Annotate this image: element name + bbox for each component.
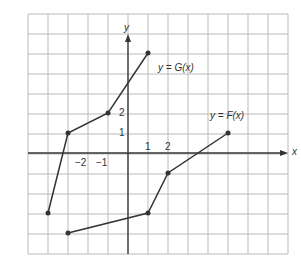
tick-x-m1: −1 (96, 157, 107, 168)
g-label: y = G(x) (158, 62, 194, 73)
tick-x-m2: −2 (75, 157, 86, 168)
tick-y-1: 1 (119, 127, 125, 138)
tick-y-2: 2 (119, 107, 125, 118)
f-label: y = F(x) (210, 110, 244, 121)
x-axis-label: x (292, 146, 297, 157)
chart (0, 0, 301, 267)
tick-x-2: 2 (165, 141, 171, 152)
tick-x-1: 1 (145, 141, 151, 152)
y-axis-label: y (124, 22, 129, 33)
